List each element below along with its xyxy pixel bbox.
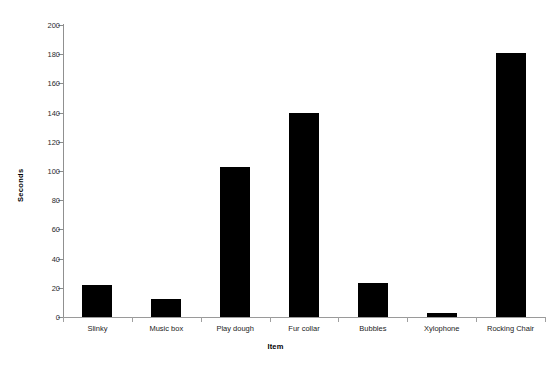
x-axis-category-label: Bubbles: [359, 324, 386, 333]
bar-chart: Seconds 020406080100120140160180200 Slin…: [0, 0, 551, 369]
x-axis-category-label: Rocking Chair: [487, 324, 534, 333]
y-axis-title: Seconds: [14, 150, 28, 220]
x-axis-tick-mark: [407, 317, 408, 322]
bar: [358, 283, 388, 317]
bar: [151, 299, 181, 317]
x-axis-tick-mark: [201, 317, 202, 322]
x-axis-category-label: Xylophone: [424, 324, 459, 333]
x-axis-title: Item: [0, 342, 551, 351]
x-axis-category-label: Music box: [149, 324, 183, 333]
bar: [496, 53, 526, 317]
bar: [220, 167, 250, 317]
x-axis-tick-mark: [132, 317, 133, 322]
plot-area: 020406080100120140160180200: [63, 25, 545, 317]
x-axis-tick-mark: [476, 317, 477, 322]
y-axis-tick-label: 0: [56, 313, 60, 322]
y-axis-tick-label: 200: [47, 21, 60, 30]
x-axis-category-label: Fur collar: [288, 324, 319, 333]
y-axis-tick-label: 100: [47, 167, 60, 176]
y-axis-tick-label: 60: [52, 225, 60, 234]
x-axis-category-label: Slinky: [87, 324, 107, 333]
y-axis-tick-label: 40: [52, 254, 60, 263]
y-axis-tick-label: 140: [47, 108, 60, 117]
x-axis-tick-mark: [63, 317, 64, 322]
x-axis-tick-mark: [270, 317, 271, 322]
y-axis-tick-label: 180: [47, 50, 60, 59]
x-axis-category-label: Play dough: [216, 324, 254, 333]
y-axis-tick-label: 160: [47, 79, 60, 88]
x-axis-tick-mark: [338, 317, 339, 322]
y-axis-tick-label: 120: [47, 137, 60, 146]
x-axis-tick-mark: [545, 317, 546, 322]
y-axis-tick-label: 20: [52, 283, 60, 292]
y-axis-tick-label: 80: [52, 196, 60, 205]
x-axis-line: [63, 317, 546, 318]
bar: [82, 285, 112, 317]
bar: [289, 113, 319, 317]
bar: [427, 313, 457, 317]
